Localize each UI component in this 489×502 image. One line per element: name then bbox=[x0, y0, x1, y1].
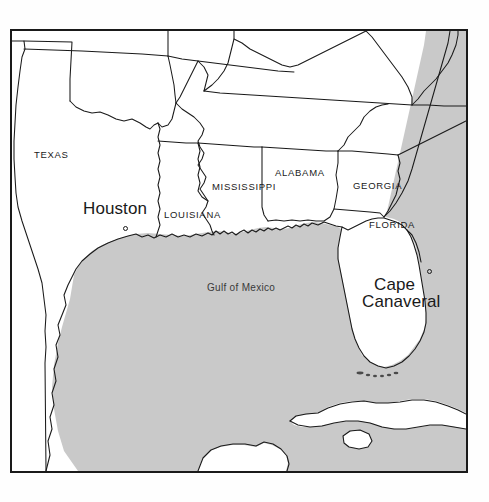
city-marker-houston bbox=[123, 226, 128, 231]
border-mississippi-north bbox=[198, 143, 262, 147]
map-frame: TEXAS LOUISIANA MISSISSIPPI ALABAMA GEOR… bbox=[10, 29, 468, 473]
border-georgia-florida bbox=[334, 209, 384, 217]
border-missouri-kentucky bbox=[198, 61, 208, 91]
border-kentucky-virginia-upper bbox=[366, 31, 412, 105]
border-georgia-north bbox=[338, 151, 398, 155]
border-texas-east bbox=[156, 123, 160, 237]
city-marker-cape-canaveral bbox=[427, 269, 432, 274]
border-alabama-georgia bbox=[268, 151, 338, 221]
border-arkansas-north bbox=[168, 56, 294, 72]
border-oklahoma-north bbox=[24, 49, 176, 103]
border-oklahoma-arkansas bbox=[158, 103, 176, 127]
border-texas-west bbox=[12, 41, 46, 471]
border-mississippi-river-south bbox=[176, 103, 214, 235]
border-mississippi-alabama bbox=[262, 147, 268, 221]
border-alabama-north bbox=[262, 147, 338, 151]
border-tennessee-east bbox=[338, 104, 388, 151]
map-graphic bbox=[12, 31, 466, 471]
border-texas-oklahoma-redriver bbox=[70, 101, 158, 129]
border-illinois-kentucky bbox=[204, 31, 234, 91]
border-arkansas-louisiana bbox=[158, 141, 198, 143]
border-kentucky-ohio-river bbox=[234, 31, 366, 67]
border-arkansas-east-mississippi-river bbox=[176, 61, 198, 103]
map-page: TEXAS LOUISIANA MISSISSIPPI ALABAMA GEOR… bbox=[0, 0, 489, 502]
